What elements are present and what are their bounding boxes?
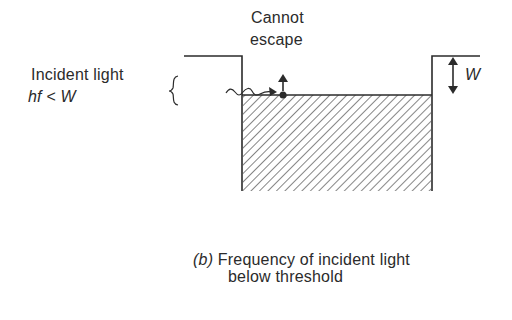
label-incident-light: Incident light <box>31 66 124 84</box>
caption-line2: below threshold <box>228 268 343 286</box>
label-hf: hf <box>28 88 42 105</box>
label-work-function: W <box>465 66 480 84</box>
caption-tag: (b) <box>193 251 213 268</box>
metal-hatched-region <box>243 95 431 191</box>
label-escape: escape <box>250 31 303 49</box>
label-less-than: < <box>46 88 56 105</box>
label-cannot: Cannot <box>251 9 304 27</box>
caption-text-1: Frequency of incident light <box>218 251 410 268</box>
label-w: W <box>61 88 76 105</box>
photon-wave-icon <box>226 88 272 95</box>
brace-icon <box>169 76 178 105</box>
escape-attempt-arrow-icon <box>278 74 288 91</box>
electron-dot-icon <box>280 92 287 99</box>
label-condition: hf < W <box>28 88 76 106</box>
work-function-arrow-icon <box>448 57 458 94</box>
caption-line1: (b) Frequency of incident light <box>193 251 410 269</box>
